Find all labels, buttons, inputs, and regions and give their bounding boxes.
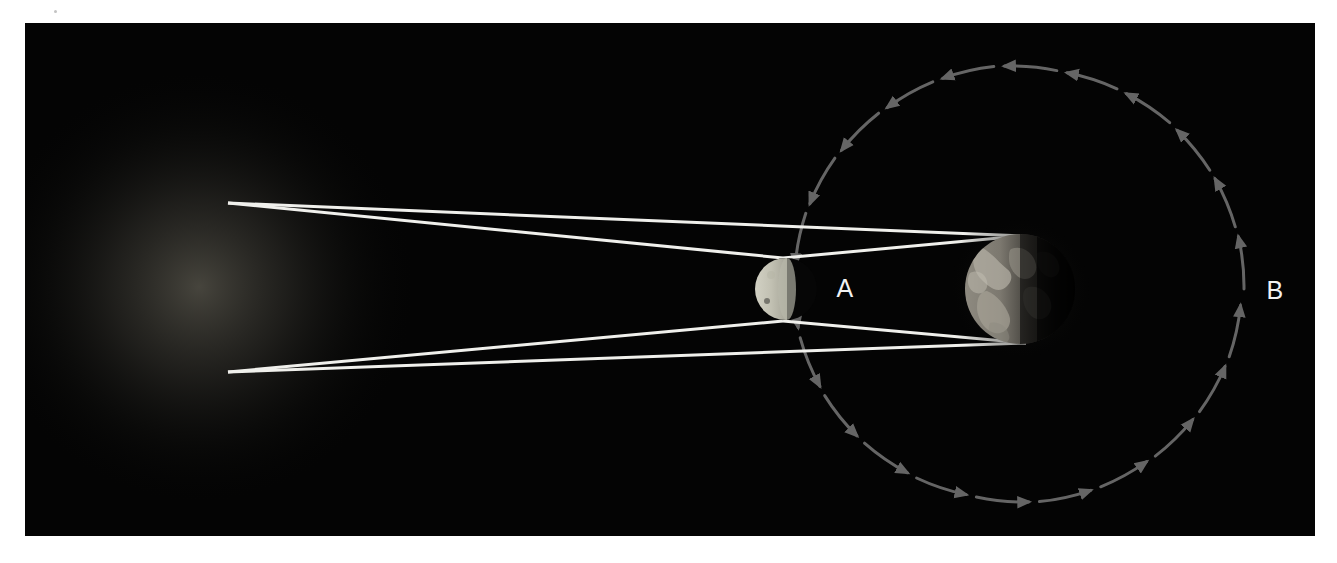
label-position-b: B: [1266, 276, 1283, 304]
eclipse-diagram-svg: A B: [25, 23, 1315, 536]
page-speck: [54, 10, 57, 13]
page-root: A B: [0, 0, 1337, 563]
label-position-a: A: [836, 274, 853, 302]
eclipse-figure-panel: A B: [25, 23, 1315, 536]
